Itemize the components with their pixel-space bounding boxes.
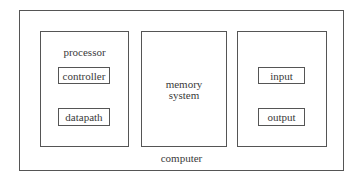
input-box: input [258, 67, 305, 84]
output-box: output [258, 108, 305, 126]
memory-label-line2: system [141, 89, 227, 101]
controller-box: controller [58, 67, 110, 84]
datapath-box: datapath [58, 108, 110, 126]
computer-label: computer [19, 152, 344, 164]
io-box [237, 31, 327, 147]
controller-label: controller [59, 70, 109, 82]
output-label: output [259, 111, 304, 123]
processor-label: processor [40, 46, 129, 58]
input-label: input [259, 70, 304, 82]
datapath-label: datapath [59, 111, 109, 123]
